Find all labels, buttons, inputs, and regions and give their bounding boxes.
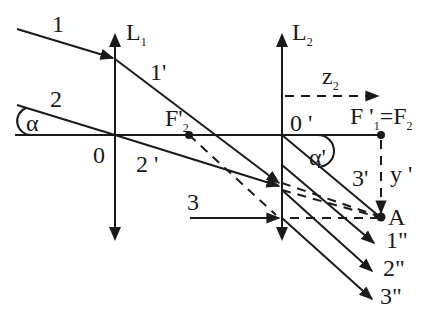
focal-point-f1-f2-label: F '1=F2	[350, 103, 413, 133]
lens-l2	[276, 33, 288, 241]
alpha-prime-label: α'	[309, 144, 326, 170]
image-point-a	[377, 213, 386, 222]
ray-2prime-label: 2 '	[136, 151, 158, 177]
ray-2-label: 2	[50, 86, 62, 112]
ray-3-label: 3	[187, 189, 199, 215]
alpha-label: α	[26, 110, 39, 136]
origin-0-label: 0	[93, 142, 105, 168]
ray-1-incident	[17, 29, 113, 58]
ray-3-emergent-label: 3"	[380, 283, 402, 309]
z2-label: z2	[322, 63, 339, 93]
ray-1prime-label: 1'	[150, 59, 166, 85]
lens-l2-label: L2	[292, 19, 313, 49]
ray-2-emergent-label: 2"	[383, 255, 405, 281]
ray-1-emergent-label: 1"	[386, 227, 408, 253]
optical-ray-diagram: L1 L2 1 1' 2 α 0 2 ' F'2 3 0 ' 3' α' F '…	[0, 0, 426, 324]
ray-3prime-label: 3'	[352, 165, 368, 191]
lens-l1-label: L1	[126, 19, 147, 49]
ray-1-label: 1	[52, 11, 64, 37]
focal-point-f2-prime-label: F'2	[165, 105, 189, 135]
y-prime-label: y '	[390, 161, 412, 187]
origin-0prime-label: 0 '	[290, 110, 312, 136]
